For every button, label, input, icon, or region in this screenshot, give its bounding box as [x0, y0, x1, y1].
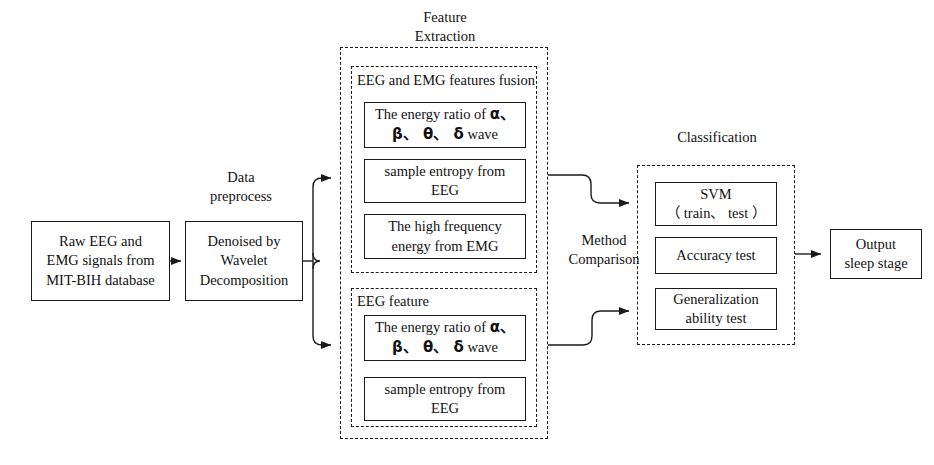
- node-output[interactable]: Output sleep stage: [830, 229, 922, 279]
- node-svm[interactable]: SVM （ train、 test ）: [655, 182, 777, 226]
- branch-node: [313, 253, 320, 269]
- node-accuracy-test[interactable]: Accuracy test: [655, 237, 777, 274]
- node-denoise[interactable]: Denoised by Wavelet Decomposition: [185, 221, 303, 301]
- energy-ratio-eeg-line2: β、 θ、 δ wave: [392, 338, 498, 358]
- node-high-frequency-emg[interactable]: The high frequency energy from EMG: [364, 214, 526, 259]
- arrow-branch-lower: [313, 261, 331, 345]
- node-energy-ratio-eeg[interactable]: The energy ratio of α、 β、 θ、 δ wave: [364, 315, 526, 361]
- fusion-group-label: EEG and EMG features fusion: [357, 72, 535, 89]
- energy-ratio-eeg-text1: The energy ratio of: [375, 319, 490, 335]
- energy-ratio-fusion-tail: wave: [464, 126, 498, 142]
- node-generalization-test[interactable]: Generalization ability test: [655, 288, 777, 330]
- energy-ratio-fusion-line2: β、 θ、 δ wave: [392, 125, 498, 145]
- flowchart-canvas: Data preprocess Feature Extraction Metho…: [0, 0, 934, 465]
- energy-ratio-fusion-greek1: α、: [490, 105, 515, 123]
- energy-ratio-eeg-greek1: α、: [490, 318, 515, 336]
- energy-ratio-fusion-text1: The energy ratio of: [375, 106, 490, 122]
- caption-data-preprocess: Data preprocess: [186, 168, 296, 206]
- caption-feature-extraction: Feature Extraction: [389, 8, 501, 46]
- node-raw-input[interactable]: Raw EEG and EMG signals from MIT-BIH dat…: [31, 221, 170, 301]
- arrow-eeg-to-classification: [548, 311, 629, 345]
- node-sample-entropy-eeg[interactable]: sample entropy from EEG: [364, 377, 526, 421]
- node-energy-ratio-fusion[interactable]: The energy ratio of α、 β、 θ、 δ wave: [364, 102, 526, 148]
- eeg-feature-group-label: EEG feature: [357, 293, 429, 310]
- energy-ratio-fusion-line1: The energy ratio of α、: [375, 105, 515, 125]
- arrow-fusion-to-classification: [548, 175, 629, 203]
- caption-classification: Classification: [655, 128, 779, 147]
- node-sample-entropy-fusion[interactable]: sample entropy from EEG: [364, 159, 526, 203]
- arrow-branch-upper: [313, 178, 331, 261]
- energy-ratio-eeg-line1: The energy ratio of α、: [375, 318, 515, 338]
- energy-ratio-fusion-greek2: β、 θ、 δ: [392, 125, 464, 143]
- energy-ratio-eeg-greek2: β、 θ、 δ: [392, 338, 464, 356]
- energy-ratio-eeg-tail: wave: [464, 339, 498, 355]
